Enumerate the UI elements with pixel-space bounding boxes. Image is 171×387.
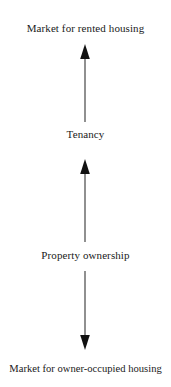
node-label-property-ownership: Property ownership bbox=[0, 249, 171, 262]
arrow-ownership-to-owner-market bbox=[80, 271, 90, 350]
arrowhead-down-icon bbox=[80, 335, 90, 350]
arrowhead-up-icon bbox=[80, 159, 90, 174]
node-label-rented-market: Market for rented housing bbox=[0, 22, 171, 35]
connector-arrows-layer bbox=[0, 0, 171, 387]
node-label-tenancy: Tenancy bbox=[0, 128, 171, 141]
arrow-tenancy-to-rented-market bbox=[80, 44, 90, 122]
node-label-owner-occupied-market: Market for owner-occupied housing bbox=[0, 362, 171, 375]
arrow-ownership-to-tenancy bbox=[80, 159, 90, 242]
housing-market-flow-diagram: Market for rented housing Tenancy Proper… bbox=[0, 0, 171, 387]
arrowhead-up-icon bbox=[80, 44, 90, 59]
